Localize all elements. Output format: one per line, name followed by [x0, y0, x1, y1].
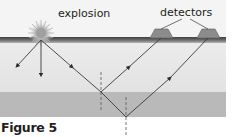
figure-caption: Figure 5 [1, 120, 57, 135]
seismic-reflection-diagram: explosion detectors [0, 0, 232, 137]
upper-rock-layer [0, 41, 226, 93]
explosion-label: explosion [58, 7, 110, 20]
diagram-svg: explosion detectors [0, 0, 232, 137]
detectors-label: detectors [160, 6, 212, 19]
